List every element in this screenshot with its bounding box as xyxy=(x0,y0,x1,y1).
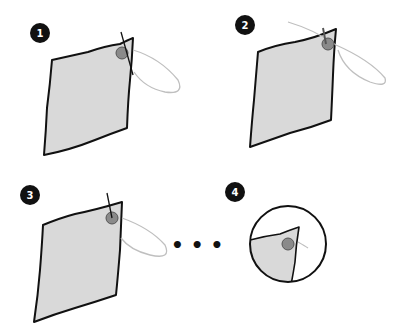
step-number: 4 xyxy=(232,187,239,198)
step-4: 4 xyxy=(225,182,326,290)
step-number: 1 xyxy=(37,28,44,39)
button-icon xyxy=(322,38,334,50)
step-badge-3: 3 xyxy=(20,185,40,205)
step-number: 2 xyxy=(242,20,249,31)
thread-loop xyxy=(133,50,180,93)
step-number: 3 xyxy=(27,190,34,201)
step-badge-4: 4 xyxy=(225,182,245,202)
button-icon xyxy=(282,238,294,250)
sewing-steps-diagram: 1 2 3 • • • 4 xyxy=(0,0,408,336)
continuation-dots: • • • xyxy=(171,233,223,257)
step-badge-2: 2 xyxy=(235,15,255,35)
step-3: 3 • • • xyxy=(20,185,223,322)
step-2: 2 xyxy=(235,15,385,147)
thread-loop xyxy=(121,218,167,256)
step-badge-1: 1 xyxy=(30,23,50,43)
step-1: 1 xyxy=(30,23,180,155)
